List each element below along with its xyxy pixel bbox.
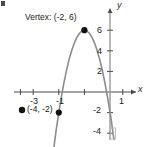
point-overlay [0, 0, 147, 147]
vertex-annotation: Vertex: (-2, 6) [25, 13, 77, 22]
y-tick-label-2: 2 [97, 67, 102, 76]
point-neg4-neg2-marker [19, 107, 25, 113]
y-tick-label-neg4: -4 [93, 127, 101, 136]
x-tick-label-neg1: -1 [56, 97, 64, 106]
x-axis-label: x [138, 85, 143, 94]
point-annotation: (-4, -2) [27, 105, 53, 114]
x-tick-label-1: 1 [119, 97, 124, 106]
y-axis-label: y [117, 1, 122, 10]
x-tick-label-neg3: -3 [30, 97, 38, 106]
y-tick-label-6: 6 [97, 26, 102, 35]
y-tick-label-4: 4 [97, 47, 102, 56]
graph-figure: Vertex: (-2, 6) (-4, -2) y x 6 4 2 -2 -4… [0, 0, 147, 147]
y-tick-label-neg2: -2 [93, 106, 101, 115]
